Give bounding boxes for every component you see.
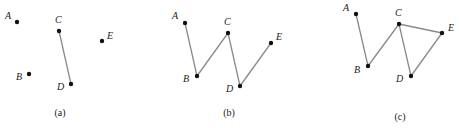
vertex-A: [354, 12, 358, 16]
vertex-D: [409, 74, 413, 78]
edge-CD: [228, 33, 240, 86]
edge-AB: [356, 14, 368, 66]
edge-BC: [197, 33, 228, 76]
vertex-label-E: E: [447, 22, 454, 33]
panel-c: ABCDE(c): [342, 2, 454, 123]
vertex-E: [440, 31, 444, 35]
vertex-label-C: C: [224, 16, 231, 27]
graph-diagram: ABCDE(a)ABCDE(b)ABCDE(c): [0, 0, 459, 128]
vertex-C: [226, 31, 230, 35]
vertex-C: [397, 22, 401, 26]
vertex-label-B: B: [354, 64, 360, 75]
vertex-label-B: B: [183, 73, 189, 84]
vertex-C: [57, 29, 61, 33]
vertex-A: [183, 21, 187, 25]
vertex-label-B: B: [16, 71, 22, 82]
vertex-label-A: A: [342, 2, 350, 13]
vertex-label-A: A: [171, 10, 179, 21]
panel-caption: (c): [394, 111, 405, 123]
edge-CD: [399, 24, 411, 76]
edge-CE: [399, 24, 442, 33]
vertex-E: [100, 39, 104, 43]
vertex-B: [366, 64, 370, 68]
panel-a: ABCDE(a): [4, 10, 113, 119]
vertex-label-C: C: [395, 7, 402, 18]
vertex-label-D: D: [225, 83, 234, 94]
edge-DE: [411, 33, 442, 76]
edge-BC: [368, 24, 399, 66]
panel-b: ABCDE(b): [171, 10, 282, 119]
edge-DE: [240, 43, 271, 86]
edge-AB: [185, 23, 197, 76]
vertex-E: [269, 41, 273, 45]
vertex-D: [238, 84, 242, 88]
vertex-B: [27, 72, 31, 76]
vertex-label-E: E: [275, 31, 282, 42]
panel-caption: (a): [54, 107, 65, 119]
vertex-label-C: C: [55, 14, 62, 25]
vertex-D: [69, 82, 73, 86]
vertex-label-D: D: [56, 81, 65, 92]
panel-caption: (b): [223, 107, 235, 119]
vertex-label-A: A: [4, 10, 12, 21]
vertex-A: [15, 20, 19, 24]
edge-CD: [59, 31, 71, 84]
vertex-B: [195, 74, 199, 78]
vertex-label-E: E: [106, 30, 113, 41]
vertex-label-D: D: [395, 73, 404, 84]
